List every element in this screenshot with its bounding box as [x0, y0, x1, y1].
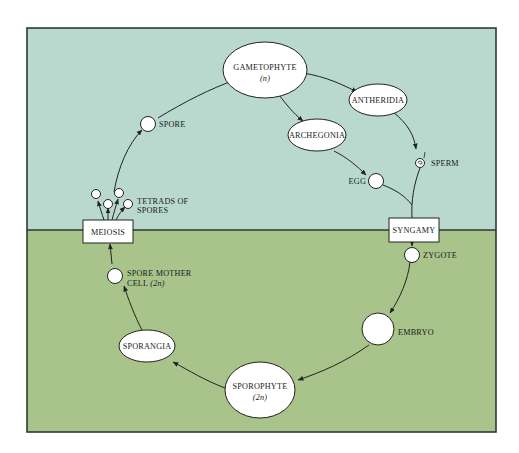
- node-meiosis: MEIOSIS: [83, 220, 133, 243]
- tetrad-spore-icon: [104, 200, 113, 209]
- gametophyte-label: GAMETOPHYTE: [233, 63, 296, 72]
- embryo-label: EMBRYO: [398, 328, 434, 337]
- node-sporangia: SPORANGIA: [119, 330, 175, 362]
- node-gametophyte: GAMETOPHYTE (n): [223, 42, 307, 98]
- spore-mother-cell-label-1: SPORE MOTHER: [127, 269, 192, 278]
- tetrad-spore-icon: [124, 200, 133, 209]
- spore-icon: [141, 117, 156, 132]
- egg-label: EGG: [349, 177, 366, 186]
- zygote-label: ZYGOTE: [423, 251, 457, 260]
- syngamy-label: SYNGAMY: [393, 226, 436, 235]
- spore-mother-cell-label-2: CELL (2n): [127, 279, 165, 288]
- node-sporophyte: SPOROPHYTE (2n): [225, 362, 295, 418]
- node-antheridia: ANTHERIDIA: [349, 84, 407, 116]
- tetrad-spore-icon: [92, 190, 101, 199]
- node-archegonia: ARCHEGONIA: [288, 119, 346, 151]
- sporophyte-ploidy: (2n): [253, 393, 268, 402]
- antheridia-label: ANTHERIDIA: [352, 96, 404, 105]
- sporophyte-label: SPOROPHYTE: [233, 382, 288, 391]
- sporangia-label: SPORANGIA: [123, 342, 172, 351]
- archegonia-label: ARCHEGONIA: [289, 131, 345, 140]
- gametophyte-ploidy: (n): [260, 74, 270, 83]
- life-cycle-diagram: GAMETOPHYTE (n) ANTHERIDIA ARCHEGONIA SP…: [0, 0, 519, 453]
- spore-mother-cell-icon: [108, 269, 123, 284]
- egg-icon: [369, 174, 384, 189]
- spore-label: SPORE: [159, 120, 185, 129]
- sperm-label: SPERM: [431, 159, 459, 168]
- tetrad-spore-icon: [115, 189, 124, 198]
- embryo-icon: [362, 313, 394, 345]
- zygote-icon: [405, 248, 420, 263]
- tetrads-label-2: SPORES: [137, 206, 168, 215]
- meiosis-label: MEIOSIS: [91, 228, 125, 237]
- tetrads-label-1: TETRADS OF: [137, 197, 189, 206]
- node-syngamy: SYNGAMY: [389, 218, 439, 242]
